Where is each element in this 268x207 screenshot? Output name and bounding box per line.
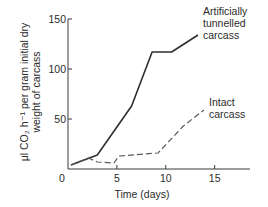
x-tick-label: 15	[209, 172, 221, 184]
y-axis-title-line-1: μl CO₂ h⁻¹ per gram initial dry	[18, 22, 30, 161]
y-tick-label: 50	[54, 113, 66, 125]
annotation-intact: carcass	[209, 108, 245, 120]
annotation-intact: Intact	[209, 96, 235, 108]
line-chart: 50100150 051015 Artificiallytunnelledcar…	[0, 0, 268, 207]
y-axis-title-line-2: weight of carcass	[30, 51, 42, 133]
y-tick-label: 150	[48, 13, 66, 25]
axes	[68, 19, 250, 169]
y-tick-label: 100	[48, 63, 66, 75]
annotation-tunnelled: tunnelled	[203, 17, 246, 29]
x-ticks: 051015	[59, 165, 221, 184]
annotations: ArtificiallytunnelledcarcassIntactcarcas…	[203, 5, 248, 120]
x-tick-label: 10	[160, 172, 172, 184]
series-line-tunnelled	[71, 35, 198, 165]
annotation-tunnelled: carcass	[203, 29, 239, 41]
x-axis-title: Time (days)	[114, 188, 169, 200]
x-tick-label: 0	[59, 172, 65, 184]
series-group	[71, 35, 204, 165]
annotation-tunnelled: Artificially	[203, 5, 248, 17]
x-tick-label: 5	[114, 172, 120, 184]
